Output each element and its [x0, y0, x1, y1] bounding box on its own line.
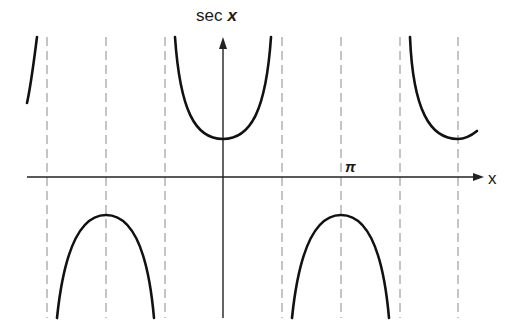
x-axis-arrow-icon	[473, 173, 484, 181]
x-axis-label: x	[488, 169, 497, 188]
sec-x-graph: secx x π	[0, 0, 515, 335]
branch-left-upper	[27, 37, 37, 103]
y-axis-arrow-icon	[219, 37, 227, 49]
pi-tick-label: π	[345, 158, 356, 175]
y-axis-label: secx	[196, 6, 238, 25]
branch-right-upper	[410, 37, 477, 139]
